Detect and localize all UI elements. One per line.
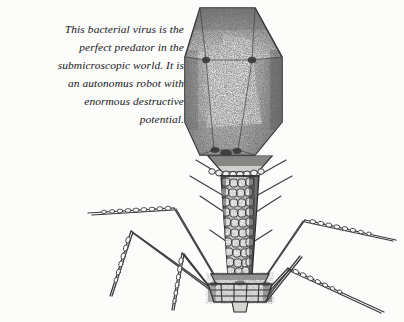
tail-sheath (221, 176, 259, 278)
capsid-head (183, 6, 285, 158)
tail-fiber-upper-right (259, 219, 396, 286)
tail-fiber-lower-right (262, 268, 384, 313)
tail-fiber-upper-left (88, 206, 221, 286)
collar (208, 156, 272, 177)
illustration-page: This bacterial virus is the perfect pred… (0, 0, 404, 322)
baseplate (206, 272, 274, 312)
bacteriophage-illustration (0, 0, 404, 322)
tail-fiber-lower-left (110, 231, 217, 296)
